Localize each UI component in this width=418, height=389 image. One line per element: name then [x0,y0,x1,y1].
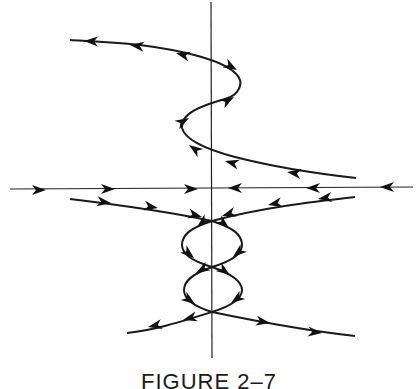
lower-left-separatrix [127,312,212,333]
phase-portrait-diagram [0,0,418,389]
lower-right-separatrix [212,312,355,336]
loop-arrows [180,214,247,308]
figure-caption: FIGURE 2–7 [0,369,418,389]
lower-separatrix-arrows [147,312,323,338]
vertical-axis [211,2,212,358]
upper-right-separatrix [212,197,355,221]
upper-left-loop [182,221,212,267]
upper-right-loop [212,221,242,267]
lower-left-loop [184,267,212,312]
s-curve-trajectory [70,40,356,178]
s-curve-arrows [84,36,302,179]
